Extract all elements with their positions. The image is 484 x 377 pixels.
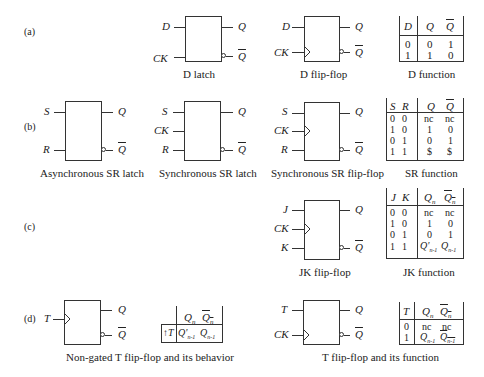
caption-sync-sr-flip-flop: Synchronous SR flip-flop xyxy=(271,167,384,179)
part-label-c: (c) xyxy=(24,221,35,232)
caption-async-sr-latch: Asynchronous SR latch xyxy=(40,167,144,179)
caption-sr-function: SR function xyxy=(405,167,458,179)
clock-edge-icon xyxy=(304,46,312,58)
part-label-b: (b) xyxy=(24,121,36,132)
caption-sync-sr-latch: Synchronous SR latch xyxy=(159,167,257,179)
clock-edge-icon xyxy=(304,125,312,137)
caption-jk-flip-flop: JK flip-flop xyxy=(299,266,351,278)
caption-d-function: D function xyxy=(408,68,455,80)
clock-edge-icon xyxy=(64,313,72,325)
part-label-a: (a) xyxy=(24,26,35,37)
caption-jk-function: JK function xyxy=(403,266,455,278)
caption-nongated-t-flip-flop: Non-gated T flip-flop and its behavior xyxy=(66,351,234,363)
part-label-d: (d) xyxy=(24,313,36,324)
clock-edge-icon xyxy=(304,223,312,235)
clock-edge-icon xyxy=(303,329,311,341)
caption-d-latch: D latch xyxy=(183,68,215,80)
caption-t-flip-flop: T flip-flop and its function xyxy=(322,351,439,363)
caption-d-flip-flop: D flip-flop xyxy=(300,68,347,80)
